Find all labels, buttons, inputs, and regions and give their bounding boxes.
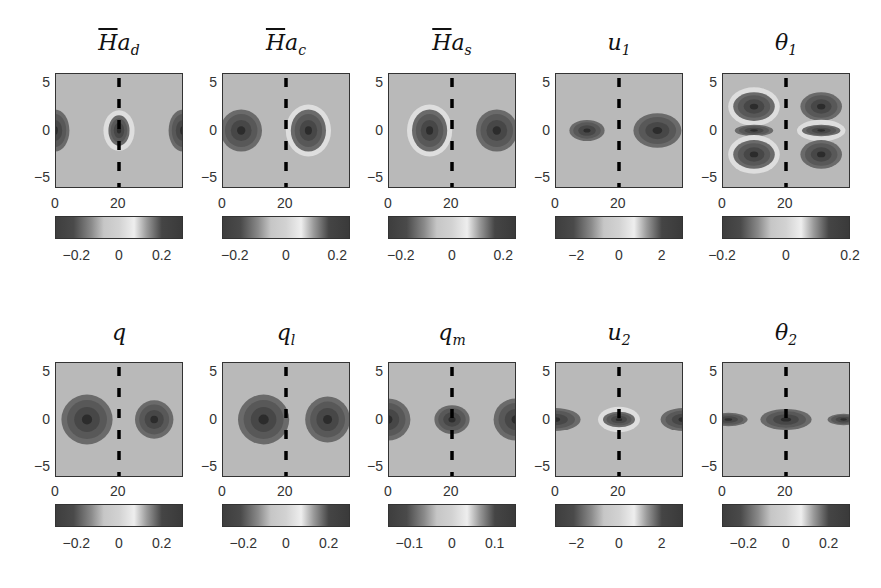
x-tick-label: 20 [610,483,626,499]
colorbar-tick-label: −0.1 [396,535,424,551]
y-tick-label: −5 [361,458,383,474]
panel-title: Hac [222,30,350,58]
colorbar-tick-label: −0.2 [387,247,415,263]
colorbar-tick-label: 2 [658,247,666,263]
colorbar-tick-label: 0.2 [327,247,346,263]
y-tick-label: 5 [195,363,217,379]
y-tick-label: 5 [361,363,383,379]
heatmap-plot [388,73,516,188]
colorbar-tick-label: 0.2 [152,535,171,551]
colorbar [388,504,516,527]
panel-title: θ2 [722,320,850,348]
colorbar-tick-label: 0 [448,535,456,551]
x-tick-label: 20 [610,195,626,211]
y-tick-label: 5 [361,74,383,90]
y-tick-label: 0 [695,411,717,427]
y-tick-label: 0 [528,122,550,138]
colorbar-tick-label: −0.2 [63,247,91,263]
y-tick-label: 5 [195,74,217,90]
y-tick-label: −5 [195,458,217,474]
y-tick-label: 0 [695,122,717,138]
colorbar-tick-label: 0 [782,535,790,551]
colorbar-tick-label: 0 [282,247,290,263]
colorbar [55,216,183,239]
heatmap-plot [55,73,183,188]
y-tick-label: 0 [361,122,383,138]
colorbar-tick-label: 0.2 [319,535,338,551]
colorbar-tick-label: −0.2 [708,247,736,263]
colorbar [222,216,350,239]
colorbar-tick-label: −2 [568,247,584,263]
colorbar-tick-label: −0.2 [63,535,91,551]
heatmap-plot [55,362,183,477]
colorbar-tick-label: −2 [568,535,584,551]
x-tick-label: 0 [551,195,559,211]
colorbar-tick-label: 0 [615,247,623,263]
x-tick-label: 20 [443,483,459,499]
y-tick-label: 5 [28,363,50,379]
panel-title: ql [222,320,350,348]
x-tick-label: 0 [384,195,392,211]
colorbar-tick-label: 0 [448,247,456,263]
x-tick-label: 20 [777,483,793,499]
colorbar-tick-label: 0 [615,535,623,551]
colorbar [722,504,850,527]
y-tick-label: −5 [528,458,550,474]
y-tick-label: −5 [28,169,50,185]
colorbar-tick-label: 0 [782,247,790,263]
colorbar-tick-label: 0.2 [840,247,859,263]
colorbar-tick-label: −0.2 [730,535,758,551]
y-tick-label: −5 [695,458,717,474]
y-tick-label: 5 [528,74,550,90]
y-tick-label: 0 [28,411,50,427]
heatmap-plot [222,73,350,188]
x-tick-label: 20 [277,195,293,211]
x-tick-label: 0 [384,483,392,499]
heatmap-plot [555,362,683,477]
colorbar [388,216,516,239]
y-tick-label: −5 [195,169,217,185]
x-tick-label: 20 [110,195,126,211]
colorbar-tick-label: 0.2 [152,247,171,263]
x-tick-label: 0 [718,195,726,211]
colorbar-tick-label: −0.2 [230,535,258,551]
y-tick-label: −5 [528,169,550,185]
y-tick-label: 5 [695,363,717,379]
x-tick-label: 20 [277,483,293,499]
y-tick-label: −5 [695,169,717,185]
colorbar-tick-label: −0.2 [221,247,249,263]
panel-title: u1 [555,30,683,58]
heatmap-plot [722,362,850,477]
panel-title: Has [388,30,516,58]
heatmap-plot [222,362,350,477]
panel-title: q [55,320,183,348]
colorbar-tick-label: 0.2 [819,535,838,551]
x-tick-label: 0 [51,195,59,211]
x-tick-label: 0 [218,483,226,499]
colorbar-tick-label: 0 [115,247,123,263]
y-tick-label: 0 [195,122,217,138]
colorbar [555,216,683,239]
y-tick-label: −5 [28,458,50,474]
x-tick-label: 20 [777,195,793,211]
panel-title: qm [388,320,516,348]
y-tick-label: 5 [28,74,50,90]
colorbar-tick-label: 0 [282,535,290,551]
colorbar-tick-label: 2 [658,535,666,551]
heatmap-plot [388,362,516,477]
y-tick-label: 5 [528,363,550,379]
y-tick-label: 0 [361,411,383,427]
x-tick-label: 20 [110,483,126,499]
x-tick-label: 0 [51,483,59,499]
y-tick-label: −5 [361,169,383,185]
panel-title: Had [55,30,183,58]
colorbar [722,216,850,239]
colorbar [55,504,183,527]
x-tick-label: 0 [551,483,559,499]
colorbar [222,504,350,527]
y-tick-label: 0 [528,411,550,427]
x-tick-label: 0 [218,195,226,211]
colorbar-tick-label: 0.1 [485,535,504,551]
y-tick-label: 0 [195,411,217,427]
heatmap-plot [722,73,850,188]
